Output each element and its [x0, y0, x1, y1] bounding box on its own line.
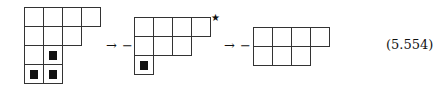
diagram-cell — [134, 17, 154, 37]
arrow-2: → — [224, 39, 235, 52]
diagram-cell — [310, 27, 330, 47]
arrow-1: → — [106, 39, 117, 52]
diagram-cell — [43, 45, 63, 65]
diagram-cell — [81, 7, 101, 27]
diagram-cell — [172, 36, 192, 56]
equation-number: (5.554) — [386, 37, 433, 52]
diagram-cell — [134, 36, 154, 56]
diagram-cell — [43, 7, 63, 27]
star-icon: ★ — [211, 13, 220, 23]
filled-square-marker — [49, 51, 57, 60]
diagram-cell — [43, 64, 63, 84]
diagram-cell — [43, 26, 63, 46]
minus-sign-2: − — [240, 39, 251, 52]
filled-square-marker — [30, 70, 38, 79]
diagram-cell — [172, 17, 192, 37]
diagram-cell — [291, 27, 311, 47]
diagram-cell — [253, 46, 273, 66]
minus-sign-1: − — [122, 39, 133, 52]
filled-square-marker — [140, 61, 148, 70]
diagram-cell — [272, 46, 292, 66]
filled-square-marker — [49, 70, 57, 79]
diagram-cell — [24, 45, 44, 65]
diagram-cell — [62, 7, 82, 27]
diagram-cell — [62, 26, 82, 46]
diagram-cell — [291, 46, 311, 66]
diagram-cell — [272, 27, 292, 47]
diagram-cell — [134, 55, 154, 75]
diagram-cell — [153, 17, 173, 37]
diagram-cell — [24, 26, 44, 46]
diagram-cell — [191, 17, 211, 37]
diagram-cell — [24, 64, 44, 84]
diagram-cell — [253, 27, 273, 47]
diagram-cell — [24, 7, 44, 27]
diagram-cell — [153, 36, 173, 56]
